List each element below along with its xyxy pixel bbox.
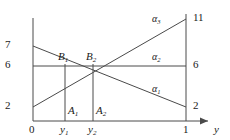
- line-alpha-1: [33, 46, 186, 107]
- line-alpha-3: [33, 19, 186, 107]
- alpha-3-subscript: 3: [157, 18, 160, 25]
- left-tick-7: 7: [5, 39, 11, 50]
- left-tick-2: 2: [5, 100, 11, 111]
- A2-letter: A: [96, 104, 103, 116]
- B2-letter: B: [86, 50, 93, 62]
- B1-letter: B: [58, 50, 65, 62]
- label-alpha-1: α1: [152, 84, 161, 94]
- x-tick-one: 1: [183, 124, 189, 135]
- right-tick-2: 2: [193, 100, 199, 111]
- alpha-2-subscript: 2: [157, 56, 160, 63]
- A1-letter: A: [68, 104, 75, 116]
- x-tick-origin: 0: [29, 124, 35, 135]
- A2-subscript: 2: [103, 110, 107, 118]
- point-label-A1: A1: [68, 105, 78, 116]
- point-label-B2: B2: [86, 51, 96, 62]
- point-label-B1: B1: [58, 51, 68, 62]
- A1-subscript: 1: [75, 110, 79, 118]
- label-alpha-3: α3: [152, 14, 161, 24]
- x-axis-arrow: [200, 118, 208, 125]
- B2-subscript: 2: [93, 56, 97, 64]
- B1-subscript: 1: [65, 56, 69, 64]
- x-axis-label: y: [214, 124, 219, 135]
- label-alpha-2: α2: [152, 52, 161, 62]
- right-tick-11: 11: [193, 12, 204, 23]
- alpha-1-subscript: 1: [157, 88, 160, 95]
- point-label-A2: A2: [96, 105, 106, 116]
- right-tick-6: 6: [193, 59, 199, 70]
- y1-subscript: 1: [65, 129, 69, 137]
- x-tick-y2: y2: [88, 124, 96, 135]
- y2-subscript: 2: [93, 129, 97, 137]
- left-tick-6: 6: [5, 59, 11, 70]
- x-tick-y1: y1: [60, 124, 68, 135]
- math-line-diagram: 7 6 2 11 6 2 α3 α2 α1 B1 B2 A1 A2 0 y1 y…: [0, 0, 230, 140]
